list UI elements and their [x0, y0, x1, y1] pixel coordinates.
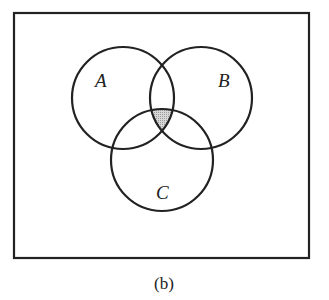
figure-caption: (b) — [154, 274, 174, 293]
label-b: B — [218, 70, 230, 91]
circle-a — [72, 47, 174, 149]
venn-diagram: A B C (b) — [0, 0, 329, 300]
label-c: C — [156, 182, 169, 203]
label-a: A — [93, 70, 107, 91]
universe-rectangle — [14, 13, 309, 258]
circle-b — [150, 47, 252, 149]
